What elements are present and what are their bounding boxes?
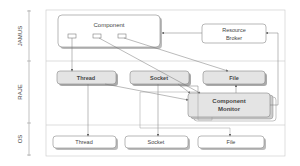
layer-label-jamus: JAMUS [17,26,23,46]
component-port-file [118,34,126,38]
resource-broker-label-2: Broker [226,35,242,41]
component-monitor-label-1: Component [212,98,245,104]
os-thread-label: Thread [75,139,92,145]
resource-broker-label-1: Resource [222,27,246,33]
layer-label-raje: RAJE [17,84,23,99]
raje-socket-box[interactable]: Socket [130,71,191,86]
component-monitor-box[interactable]: Component Monitor [188,93,276,121]
raje-socket-label: Socket [150,75,168,81]
layer-label-os: OS [17,135,23,144]
raje-thread-box[interactable]: Thread [57,71,118,86]
raje-file-label: File [229,75,238,81]
os-thread-box[interactable]: Thread [53,136,118,150]
os-file-box[interactable]: File [198,136,266,150]
os-socket-label: Socket [148,139,165,145]
os-file-label: File [227,139,236,145]
layer-axis [27,10,31,156]
component-port-thread [68,34,76,38]
raje-thread-label: Thread [77,75,95,81]
component-port-socket [93,34,101,38]
raje-file-box[interactable]: File [203,71,267,86]
architecture-diagram: JAMUS RAJE OS Component Resource Broker … [0,0,300,166]
resource-broker-box[interactable]: Resource Broker [202,24,266,43]
os-socket-box[interactable]: Socket [125,136,190,150]
component-label: Component [93,22,124,28]
component-monitor-label-2: Monitor [218,106,241,112]
